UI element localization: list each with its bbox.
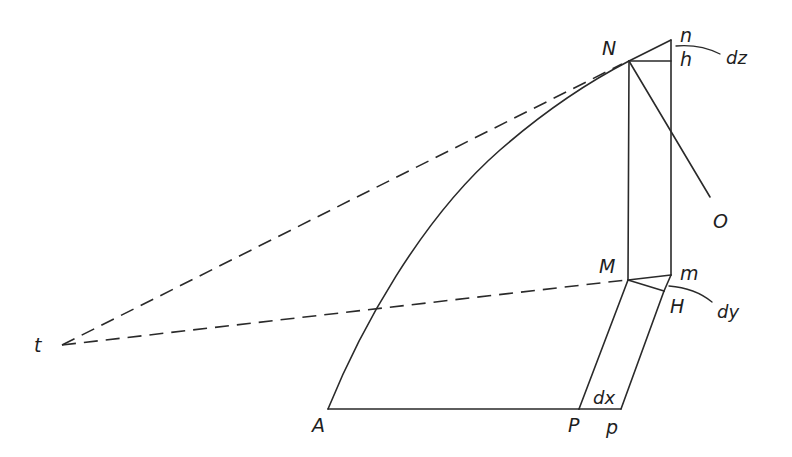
segment-Mm — [628, 275, 671, 280]
segment-NO — [629, 61, 710, 197]
label-H: H — [670, 295, 684, 317]
label-m: m — [680, 262, 699, 284]
segment-Nn — [629, 40, 671, 61]
label-p: p — [605, 416, 618, 438]
segment-Hm — [664, 275, 671, 291]
geometric-diagram: t A P p dx M m H dy N n h dz O — [0, 0, 792, 457]
label-dy: dy — [717, 301, 739, 322]
line-tM — [62, 280, 626, 345]
label-O: O — [713, 210, 728, 232]
segment-MH — [628, 280, 664, 291]
segment-pH — [621, 291, 664, 409]
label-dx: dx — [593, 387, 615, 408]
label-P: P — [568, 414, 580, 436]
label-h: h — [680, 48, 692, 70]
label-dz: dz — [726, 47, 747, 68]
segment-MN — [628, 61, 629, 280]
label-t: t — [34, 334, 43, 356]
tangent-tN — [62, 64, 622, 345]
curve-AN — [328, 61, 629, 409]
label-A: A — [310, 414, 325, 436]
label-M: M — [599, 255, 615, 277]
label-n: n — [680, 24, 692, 46]
label-N: N — [602, 37, 616, 59]
